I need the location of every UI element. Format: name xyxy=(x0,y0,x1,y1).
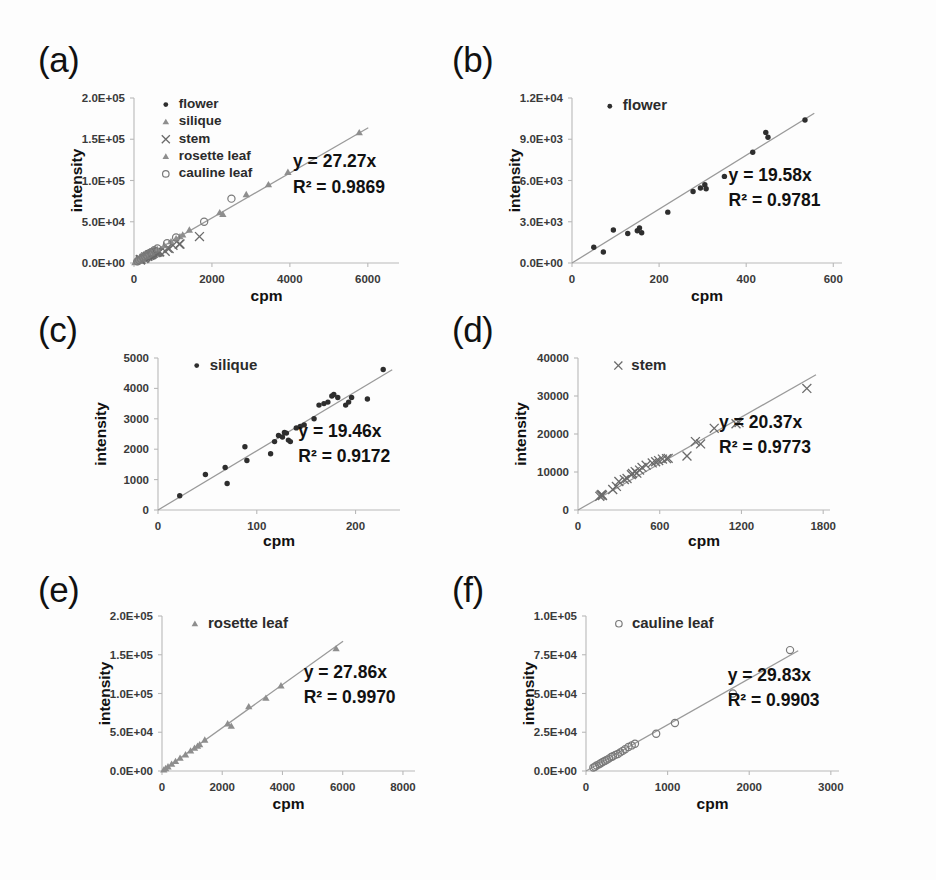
y-tick-label: 5000 xyxy=(123,352,149,364)
x-tick-label: 6000 xyxy=(355,273,381,285)
x-axis-title: cpm xyxy=(263,532,295,549)
data-point xyxy=(224,481,229,486)
x-tick-label: 4000 xyxy=(277,273,303,285)
r-squared-value: R² = 0.9773 xyxy=(719,437,811,457)
y-tick-label: 40000 xyxy=(537,352,569,364)
r-squared-value: R² = 0.9172 xyxy=(298,446,390,466)
y-tick-label: 0.0E+00 xyxy=(82,257,125,269)
r-squared-value: R² = 0.9869 xyxy=(293,177,385,197)
data-point xyxy=(639,230,644,235)
data-point xyxy=(637,225,642,230)
data-point xyxy=(346,399,351,404)
legend-marker-icon xyxy=(163,171,169,177)
legend-label: cauline leaf xyxy=(632,614,715,631)
regression-equation: y = 20.37x xyxy=(719,412,802,432)
y-tick-label: 0 xyxy=(143,504,149,516)
x-tick-label: 400 xyxy=(737,273,756,285)
y-tick-label: 10000 xyxy=(537,466,569,478)
x-tick-label: 1000 xyxy=(655,781,681,793)
panel-letter-e: (e) xyxy=(38,572,79,607)
r-squared-value: R² = 0.9903 xyxy=(728,690,820,710)
y-tick-label: 3.0E+03 xyxy=(520,216,563,228)
y-axis-title: intensity xyxy=(96,661,113,725)
x-tick-label: 600 xyxy=(824,273,843,285)
y-tick-label: 1.0E+05 xyxy=(82,175,126,187)
x-tick-label: 100 xyxy=(247,520,266,532)
figure-scatter-grid: (a)0.0E+005.0E+041.0E+051.5E+052.0E+0502… xyxy=(0,0,936,880)
y-tick-label: 30000 xyxy=(537,390,569,402)
panel-d-plot: 010000200003000040000060012001800cpminte… xyxy=(508,348,848,548)
regression-equation: y = 27.86x xyxy=(304,662,387,682)
legend-label: stem xyxy=(179,131,211,146)
panel-letter-f: (f) xyxy=(452,572,484,607)
panel-letter-d: (d) xyxy=(452,312,493,347)
y-tick-label: 0.0E+00 xyxy=(520,257,563,269)
y-tick-label: 1.2E+04 xyxy=(520,92,564,104)
panel-letter-a: (a) xyxy=(38,42,79,77)
data-point xyxy=(288,439,293,444)
data-point xyxy=(245,703,252,709)
data-point xyxy=(316,402,321,407)
data-point xyxy=(268,451,273,456)
data-point xyxy=(277,682,284,688)
legend-entry-silique: silique xyxy=(163,113,223,128)
data-point xyxy=(201,736,208,742)
x-tick-label: 0 xyxy=(159,781,165,793)
y-tick-label: 7.5E+04 xyxy=(534,649,578,661)
x-tick-label: 0 xyxy=(569,273,575,285)
legend-label: cauline leaf xyxy=(179,165,253,180)
legend-marker-icon xyxy=(162,135,170,143)
data-point xyxy=(244,458,249,463)
x-axis-title: cpm xyxy=(688,532,720,549)
data-point xyxy=(381,367,386,372)
y-tick-label: 2.0E+05 xyxy=(110,610,154,622)
legend-entry-stem: stem xyxy=(614,356,666,373)
y-tick-label: 2.5E+04 xyxy=(534,726,578,738)
legend-marker-icon xyxy=(616,621,622,627)
x-tick-label: 2000 xyxy=(736,781,762,793)
y-tick-label: 5.0E+04 xyxy=(82,216,126,228)
data-point xyxy=(665,209,670,214)
x-tick-label: 600 xyxy=(650,520,669,532)
data-point xyxy=(203,472,208,477)
y-tick-label: 0 xyxy=(563,504,569,516)
legend-entry-flower: flower xyxy=(163,96,219,111)
data-point xyxy=(284,169,291,175)
data-point xyxy=(222,465,227,470)
y-axis-title: intensity xyxy=(92,402,109,466)
y-tick-label: 2000 xyxy=(123,443,149,455)
data-point xyxy=(228,195,235,202)
data-point xyxy=(710,424,719,433)
y-tick-label: 1.0E+05 xyxy=(534,610,578,622)
regression-equation: y = 29.83x xyxy=(728,665,811,685)
legend-marker-icon xyxy=(163,102,168,107)
regression-equation: y = 27.27x xyxy=(293,151,376,171)
x-tick-label: 3000 xyxy=(818,781,844,793)
x-tick-label: 0 xyxy=(575,520,581,532)
x-tick-label: 6000 xyxy=(330,781,356,793)
data-point xyxy=(625,231,630,236)
y-tick-label: 20000 xyxy=(537,428,569,440)
legend-label: stem xyxy=(631,356,666,373)
y-tick-label: 0.0E+00 xyxy=(534,765,577,777)
y-tick-label: 1000 xyxy=(123,474,149,486)
x-tick-label: 2000 xyxy=(209,781,235,793)
legend-entry-rosette-leaf: rosette leaf xyxy=(163,148,252,163)
data-point xyxy=(335,395,340,400)
data-point xyxy=(698,185,703,190)
data-point xyxy=(750,150,755,155)
data-point xyxy=(195,232,204,241)
x-axis-title: cpm xyxy=(251,287,283,304)
y-tick-label: 1.5E+05 xyxy=(82,133,126,145)
y-axis-title: intensity xyxy=(506,148,523,212)
panel-letter-c: (c) xyxy=(38,312,77,347)
regression-equation: y = 19.58x xyxy=(729,165,812,185)
x-tick-label: 0 xyxy=(155,520,161,532)
r-squared-value: R² = 0.9781 xyxy=(729,190,821,210)
x-tick-label: 1800 xyxy=(810,520,836,532)
y-tick-label: 6.0E+03 xyxy=(520,175,563,187)
data-point xyxy=(683,452,692,461)
r-squared-value: R² = 0.9970 xyxy=(304,687,396,707)
panel-letter-b: (b) xyxy=(452,42,493,77)
y-axis-title: intensity xyxy=(520,661,537,725)
